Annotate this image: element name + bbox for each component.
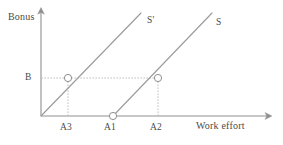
y-axis-label: Bonus bbox=[8, 12, 35, 22]
curves-group bbox=[41, 13, 212, 116]
x-tick-label-a2: A2 bbox=[150, 123, 162, 133]
marker-a3-point bbox=[64, 74, 71, 81]
economics-bonus-work-effort-chart: Bonus Work effort S' S B A3 A1 A2 bbox=[0, 0, 283, 145]
curve-s-prime-label: S' bbox=[147, 16, 154, 26]
marker-a1-point bbox=[109, 112, 116, 119]
curve-s-prime-line bbox=[41, 13, 141, 116]
axes-group bbox=[38, 8, 272, 120]
y-tick-label-b: B bbox=[25, 73, 32, 83]
curve-s-line bbox=[113, 13, 212, 116]
x-tick-label-a1: A1 bbox=[104, 123, 116, 133]
x-tick-label-a3: A3 bbox=[60, 123, 72, 133]
curve-s-label: S bbox=[216, 18, 221, 28]
x-axis-label: Work effort bbox=[196, 121, 245, 131]
marker-a2-point bbox=[154, 74, 161, 81]
